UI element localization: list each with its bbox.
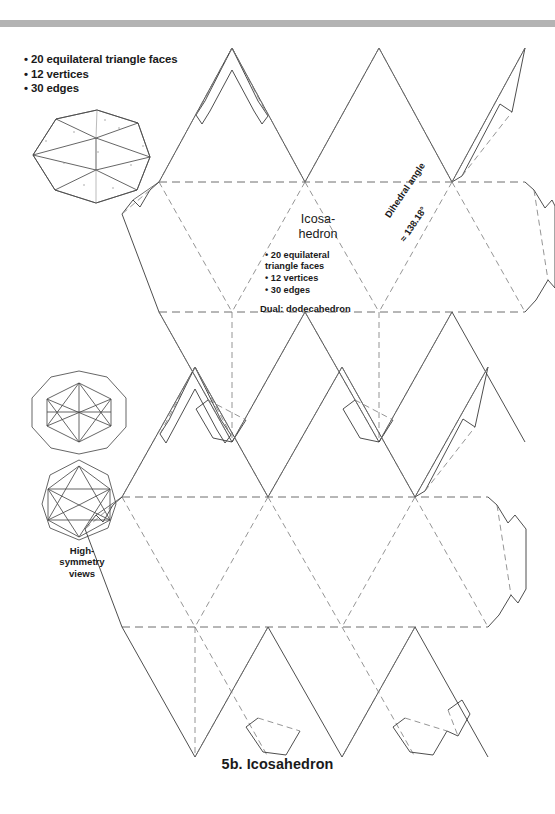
center-fact-2: triangle faces bbox=[265, 261, 378, 273]
high-symmetry-line2: symmetry bbox=[45, 556, 119, 567]
facts-top-line3: • 30 edges bbox=[24, 81, 234, 96]
center-title-line2: hedron bbox=[258, 227, 378, 242]
high-symmetry-line1: High- bbox=[45, 545, 119, 556]
facts-top-line1: • 20 equilateral triangle faces bbox=[24, 52, 234, 67]
center-fact-1: • 20 equilateral bbox=[265, 250, 378, 262]
facts-top-line2: • 12 vertices bbox=[24, 67, 234, 82]
facts-list-top: • 20 equilateral triangle faces • 12 ver… bbox=[24, 52, 234, 96]
high-symmetry-line3: views bbox=[45, 568, 119, 579]
figure-caption: 5b. Icosahedron bbox=[0, 756, 555, 772]
high-symmetry-view-2 bbox=[42, 460, 116, 540]
left-illustrations bbox=[0, 0, 555, 814]
center-fact-3: • 12 vertices bbox=[265, 273, 378, 285]
center-label-block: Icosa- hedron • 20 equilateral triangle … bbox=[258, 212, 378, 314]
center-fact-4: • 30 edges bbox=[265, 285, 378, 297]
center-dual-text: Dual: dodecahedron bbox=[258, 303, 378, 314]
high-symmetry-view-1 bbox=[32, 371, 126, 454]
page-root: • 20 equilateral triangle faces • 12 ver… bbox=[0, 0, 555, 814]
center-facts: • 20 equilateral triangle faces • 12 ver… bbox=[258, 250, 378, 296]
icosahedron-perspective-view bbox=[33, 110, 150, 203]
high-symmetry-views-label: High- symmetry views bbox=[45, 545, 119, 579]
center-title: Icosa- hedron bbox=[258, 212, 378, 243]
center-title-line1: Icosa- bbox=[258, 212, 378, 227]
